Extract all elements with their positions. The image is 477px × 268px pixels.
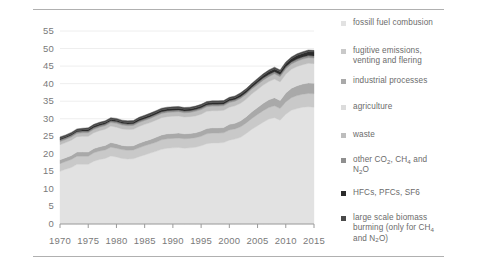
plot-area: [60, 24, 314, 224]
legend-swatch-icon: [341, 216, 346, 221]
y-axis-tick-label: 50: [28, 44, 54, 54]
x-axis-tick-label: 2015: [303, 236, 325, 246]
y-axis-tick-label: 10: [28, 184, 54, 194]
x-axis-tick-labels: 1970197519801985199019952000200520102015: [60, 236, 314, 250]
y-axis-tick-label: 45: [28, 61, 54, 71]
legend-item-other-co2-ch4-n2o[interactable]: other CO2, CH4 andN2O: [341, 155, 427, 176]
legend-item-agriculture[interactable]: agriculture: [341, 102, 392, 112]
chart-legend: fossill fuel combusionfugitive emissions…: [341, 14, 477, 250]
y-axis-tick-label: 15: [28, 166, 54, 176]
legend-swatch-icon: [341, 105, 346, 110]
y-axis-tick-label: 25: [28, 131, 54, 141]
legend-swatch-icon: [341, 79, 346, 84]
top-divider-rule: [33, 9, 444, 10]
legend-item-large-scale-biomass-burning[interactable]: large scale biomassburming (only for CH4…: [341, 213, 434, 244]
x-axis-tick-label: 2000: [218, 236, 240, 246]
y-axis-tick-label: 55: [28, 26, 54, 36]
x-axis-tick-label: 1990: [162, 236, 184, 246]
legend-label: large scale biomassburming (only for CH4…: [353, 213, 434, 244]
legend-swatch-icon: [341, 49, 346, 54]
legend-item-waste[interactable]: waste: [341, 130, 375, 140]
legend-item-fugitive-emissions[interactable]: fugitive emissions,venting and flering: [341, 46, 422, 67]
area-chart-svg: [60, 24, 314, 224]
x-axis-tick-label: 2005: [247, 236, 269, 246]
legend-item-fossil-fuel-combustion[interactable]: fossill fuel combusion: [341, 18, 433, 28]
legend-swatch-icon: [341, 133, 346, 138]
legend-label: industrial processes: [353, 76, 427, 86]
legend-label: fossill fuel combusion: [353, 18, 433, 28]
x-axis-tick-label: 1995: [190, 236, 212, 246]
y-axis-tick-label: 20: [28, 149, 54, 159]
y-axis-tick-label: 5: [28, 201, 54, 211]
y-axis-tick-label: 35: [28, 96, 54, 106]
y-axis-tick-labels: 0510152025303540455055: [22, 24, 54, 224]
y-axis-tick-label: 30: [28, 114, 54, 124]
legend-item-hfcs-pfcs-sf6[interactable]: HFCs, PFCs, SF6: [341, 188, 420, 198]
x-axis-tick-label: 1985: [134, 236, 156, 246]
legend-item-industrial-processes[interactable]: industrial processes: [341, 76, 427, 86]
legend-label: waste: [353, 130, 375, 140]
y-axis-tick-label: 40: [28, 79, 54, 89]
emissions-stacked-area-chart: 0510152025303540455055 19701975198019851…: [0, 14, 340, 246]
x-axis-tick-label: 1980: [105, 236, 127, 246]
x-axis-tick-label: 1970: [49, 236, 71, 246]
bottom-divider-rule: [33, 256, 444, 257]
x-axis-tick-label: 1975: [77, 236, 99, 246]
legend-label: agriculture: [353, 102, 392, 112]
legend-label: other CO2, CH4 andN2O: [353, 155, 427, 176]
legend-label: HFCs, PFCs, SF6: [353, 188, 420, 198]
y-axis-tick-label: 0: [28, 219, 54, 229]
x-axis-tick-label: 2010: [275, 236, 297, 246]
legend-swatch-icon: [341, 21, 346, 26]
legend-swatch-icon: [341, 191, 346, 196]
legend-swatch-icon: [341, 158, 346, 163]
legend-label: fugitive emissions,venting and flering: [353, 46, 422, 67]
